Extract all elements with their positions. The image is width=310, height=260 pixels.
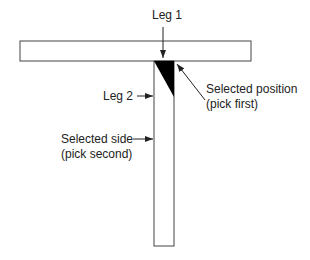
- horizontal-member: [20, 41, 251, 61]
- selected-position-sublabel: (pick first): [206, 97, 258, 111]
- tee-joint-diagram: [0, 0, 310, 260]
- selected-position-arrow: [177, 64, 205, 100]
- selected-side-label: Selected side: [61, 132, 133, 146]
- selected-position-label: Selected position: [206, 82, 297, 96]
- leg1-label: Leg 1: [152, 8, 182, 22]
- selected-side-sublabel: (pick second): [61, 147, 132, 161]
- leg2-label: Leg 2: [103, 89, 133, 103]
